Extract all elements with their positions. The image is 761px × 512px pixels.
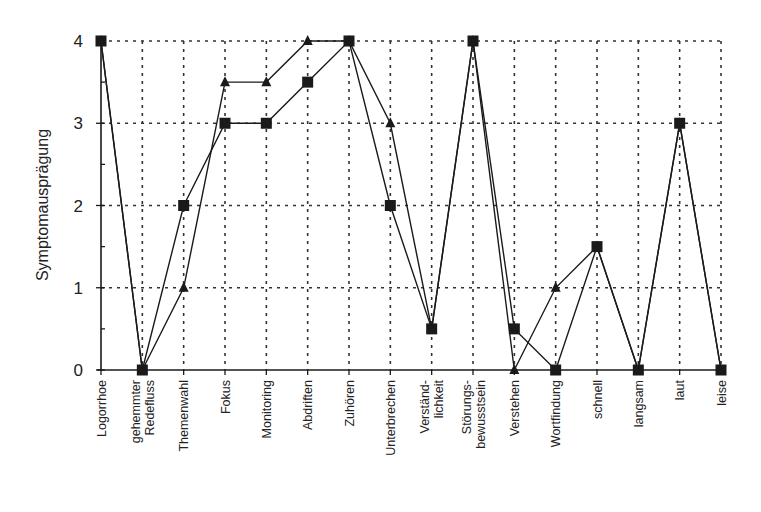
- line-chart: 01234 Symptomausprägung Logorrhoegehemmt…: [0, 0, 761, 512]
- square-marker: [220, 118, 231, 129]
- x-category-label: bewusstsein: [474, 380, 488, 449]
- triangle-marker: [385, 117, 395, 127]
- y-tick-label: 0: [74, 361, 83, 380]
- x-category-label: Störungs-: [460, 380, 474, 434]
- x-category-label: laut: [673, 379, 687, 400]
- x-category-label: schnell: [591, 380, 605, 419]
- y-tick-label: 1: [74, 279, 83, 298]
- square-marker: [344, 36, 355, 47]
- square-marker: [426, 323, 437, 334]
- x-category-label: Abdriften: [301, 380, 315, 430]
- square-marker: [385, 200, 396, 211]
- x-category-label: leise: [715, 380, 729, 406]
- y-axis-title: Symptomausprägung: [34, 129, 51, 281]
- x-category-label: Logorrhoe: [95, 380, 109, 437]
- triangle-marker: [551, 282, 561, 292]
- grid-lines: [101, 41, 721, 370]
- square-marker: [716, 365, 727, 376]
- square-series-line: [101, 41, 721, 370]
- axes: [97, 41, 721, 375]
- triangle-marker: [509, 364, 519, 374]
- y-tick-label: 2: [74, 197, 83, 216]
- x-category-label: Verständ-: [418, 380, 432, 434]
- square-marker: [509, 323, 520, 334]
- x-category-label: Unterbrechen: [384, 380, 398, 456]
- x-category-label: Fokus: [219, 380, 233, 414]
- square-marker: [592, 241, 603, 252]
- x-axis-category-labels: LogorrhoegehemmterRedeflussThemenwahlFok…: [95, 379, 729, 455]
- square-marker: [550, 365, 561, 376]
- square-marker: [302, 77, 313, 88]
- x-category-label: Monitoring: [260, 380, 274, 438]
- x-category-label: Wortfindung: [549, 380, 563, 447]
- x-category-label: langsam: [632, 380, 646, 427]
- triangle-marker: [220, 76, 230, 86]
- x-category-label: Themenwahl: [177, 380, 191, 452]
- triangle-marker: [303, 35, 313, 45]
- square-marker: [633, 365, 644, 376]
- triangle-marker: [179, 282, 189, 292]
- square-marker: [468, 36, 479, 47]
- square-marker: [674, 118, 685, 129]
- x-category-label: Verstehen: [508, 380, 522, 436]
- x-category-label: Zuhören: [343, 380, 357, 427]
- square-marker: [96, 36, 107, 47]
- triangle-series-line: [101, 41, 721, 370]
- square-marker: [261, 118, 272, 129]
- x-category-label: Redefluss: [143, 380, 157, 436]
- square-marker: [137, 365, 148, 376]
- y-tick-label: 4: [74, 32, 83, 51]
- x-category-label: lichkeit: [432, 379, 446, 418]
- x-category-label: gehemmter: [129, 380, 143, 443]
- square-marker: [178, 200, 189, 211]
- y-tick-label: 3: [74, 114, 83, 133]
